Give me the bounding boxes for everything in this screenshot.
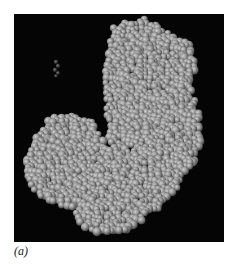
atom-sphere [31, 186, 38, 193]
atom-sphere [106, 117, 112, 123]
atom-sphere [103, 227, 111, 235]
ligand-atom [56, 64, 60, 68]
protein-atoms [23, 16, 204, 236]
atom-sphere [92, 227, 101, 236]
space-filling-molecule-model [14, 14, 224, 242]
molecule-figure-panel [14, 14, 224, 242]
ligand-atom [54, 74, 58, 78]
figure-panel-label: (a) [14, 244, 28, 259]
atom-sphere [68, 203, 76, 211]
atom-sphere [115, 226, 123, 234]
atom-sphere [81, 223, 90, 232]
atom-sphere [49, 197, 57, 205]
atom-sphere [38, 193, 44, 199]
ligand-atom [54, 60, 58, 64]
ligand-atom [53, 68, 57, 72]
ligand-molecule [53, 60, 60, 78]
atom-sphere [137, 216, 145, 224]
